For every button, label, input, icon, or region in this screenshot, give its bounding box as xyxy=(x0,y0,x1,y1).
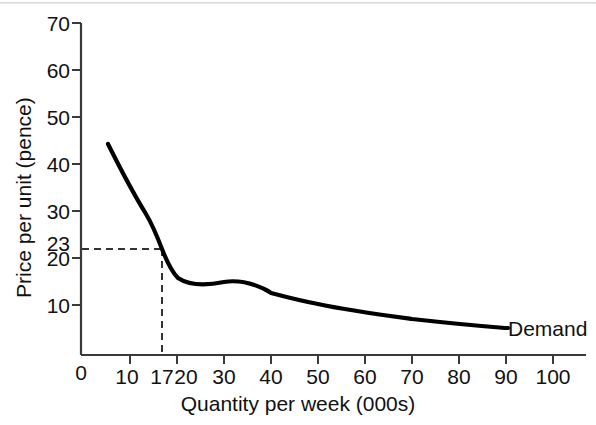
demand-curve-chart: 70 60 50 40 30 23 20 10 0 10 17 20 30 40… xyxy=(0,0,596,425)
x-tick-label-20: 20 xyxy=(167,366,205,387)
x-tick-label-90: 90 xyxy=(487,366,525,387)
x-axis-title: Quantity per week (000s) xyxy=(0,392,596,416)
y-tick-label-60: 60 xyxy=(22,60,70,81)
y-tick-label-70: 70 xyxy=(22,13,70,34)
y-axis-title: Price per unit (pence) xyxy=(12,97,36,298)
x-tick-label-60: 60 xyxy=(346,366,384,387)
x-tick-label-50: 50 xyxy=(299,366,337,387)
x-tick-label-30: 30 xyxy=(205,366,243,387)
x-tick-label-40: 40 xyxy=(252,366,290,387)
x-tick-label-0: 0 xyxy=(62,362,100,383)
x-tick-label-100: 100 xyxy=(530,366,576,387)
demand-series-label: Demand xyxy=(508,317,587,341)
x-tick-label-70: 70 xyxy=(393,366,431,387)
x-axis-ticks xyxy=(130,355,553,364)
y-axis-ticks xyxy=(72,23,81,305)
y-tick-label-10: 10 xyxy=(22,295,70,316)
x-tick-label-10: 10 xyxy=(108,366,146,387)
demand-curve-path xyxy=(108,144,505,328)
x-tick-label-80: 80 xyxy=(440,366,478,387)
